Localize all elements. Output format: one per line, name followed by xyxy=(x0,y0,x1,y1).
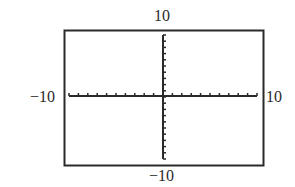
y-axis-ticks xyxy=(163,35,166,159)
x-axis-ticks xyxy=(69,93,257,96)
viewing-window xyxy=(0,0,295,187)
